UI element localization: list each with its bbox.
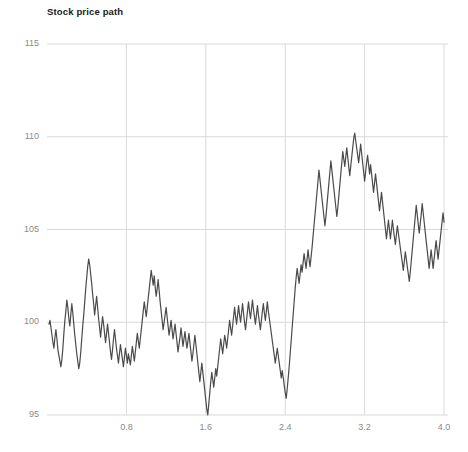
x-tick-label: 1.6 — [186, 422, 226, 432]
x-tick-label: 0.8 — [106, 422, 146, 432]
y-tick-label: 110 — [5, 131, 39, 141]
x-tick-label: 4.0 — [424, 422, 464, 432]
y-tick-label: 95 — [5, 409, 39, 419]
y-tick-label: 100 — [5, 316, 39, 326]
y-tick-label: 115 — [5, 38, 39, 48]
x-tick-label: 3.2 — [345, 422, 385, 432]
plot-area — [0, 0, 468, 452]
chart-container: Stock price path 95100105110115 0.81.62.… — [0, 0, 468, 452]
x-tick-label: 2.4 — [265, 422, 305, 432]
y-tick-label: 105 — [5, 224, 39, 234]
series-line — [49, 133, 444, 415]
